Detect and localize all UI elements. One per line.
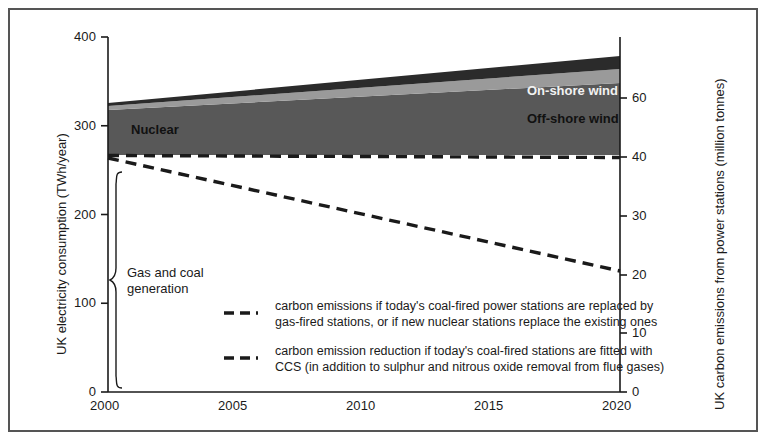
gas-coal-brace-label-line1: Gas and coal <box>127 265 204 281</box>
y-tick-label-100: 100 <box>65 295 96 310</box>
y2-tick-label-0: 0 <box>632 384 639 399</box>
y-tick-label-0: 0 <box>65 384 96 399</box>
y2-tick-label-60: 60 <box>632 90 647 105</box>
legend-entry-2-line1: carbon emission reduction if today's coa… <box>275 344 653 359</box>
gas-coal-brace-label-line2: generation <box>127 281 188 297</box>
y-tick-label-400: 400 <box>65 29 96 44</box>
y2-tick-label-40: 40 <box>632 149 647 164</box>
y2-tick-label-30: 30 <box>632 208 647 223</box>
y-tick-label-200: 200 <box>65 207 96 222</box>
legend-entry-1-line1: carbon emissions if today's coal-fired p… <box>275 299 653 314</box>
band-label-offshore-wind: Off-shore wind <box>527 111 619 126</box>
dashed-line-ccs <box>108 158 620 271</box>
x-tick-label-2005: 2005 <box>218 398 247 413</box>
y-tick-label-300: 300 <box>65 118 96 133</box>
chart-canvas <box>0 0 768 442</box>
band-label-onshore-wind: On-shore wind <box>527 83 618 98</box>
band-label-nuclear: Nuclear <box>131 122 179 137</box>
y2-tick-label-20: 20 <box>632 267 647 282</box>
left-axis-title: UK electricity consumption (TWh/year) <box>54 133 69 355</box>
right-axis-title: UK carbon emissions from power stations … <box>712 78 727 410</box>
x-tick-label-2015: 2015 <box>474 398 503 413</box>
x-tick-label-2000: 2000 <box>90 398 119 413</box>
dashed-line-gas-nuclear <box>108 156 620 158</box>
legend-entry-2-line2: CCS (in addition to sulphur and nitrous … <box>275 360 664 375</box>
legend-entry-1-line2: gas-fired stations, or if new nuclear st… <box>275 315 657 330</box>
x-tick-label-2020: 2020 <box>602 398 631 413</box>
x-tick-label-2010: 2010 <box>346 398 375 413</box>
gas-coal-brace <box>110 172 122 388</box>
